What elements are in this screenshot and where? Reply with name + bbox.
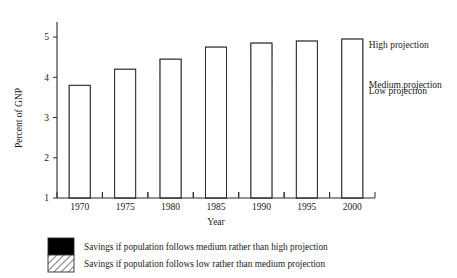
bar-1985 — [206, 47, 227, 198]
bar-outline — [342, 39, 363, 198]
plot-area — [69, 39, 363, 198]
legend-swatch-black — [48, 238, 74, 255]
bar-outline — [251, 43, 272, 198]
x-tick-label: 2000 — [343, 202, 362, 212]
bar-outline — [69, 85, 90, 198]
annotation-high: High projection — [369, 40, 429, 50]
bar-1995 — [296, 41, 317, 198]
x-tick-label: 1970 — [70, 202, 89, 212]
y-tick-label: 2 — [44, 153, 49, 163]
y-axis: 12345 — [44, 22, 57, 203]
y-tick-label: 5 — [44, 32, 49, 42]
x-tick-label: 1990 — [252, 202, 271, 212]
y-tick-label: 4 — [44, 73, 49, 83]
gnp-savings-bar-chart: 12345 1970197519801985199019952000 Perce… — [0, 0, 457, 278]
legend-label: Savings if population follows medium rat… — [84, 242, 328, 252]
bar-outline — [296, 41, 317, 198]
bar-1990 — [251, 43, 272, 198]
bar-1975 — [115, 69, 136, 198]
bar-1970 — [69, 85, 90, 198]
x-tick-label: 1985 — [207, 202, 226, 212]
x-tick-label: 1975 — [116, 202, 135, 212]
chart-container: 12345 1970197519801985199019952000 Perce… — [0, 0, 457, 278]
legend-label: Savings if population follows low rather… — [84, 259, 326, 269]
bar-outline — [115, 69, 136, 198]
projection-annotations: High projectionMedium projectionLow proj… — [369, 40, 442, 96]
x-tick-label: 1995 — [297, 202, 316, 212]
legend-swatch-hatched — [48, 255, 74, 272]
y-axis-title: Percent of GNP — [14, 88, 24, 148]
x-tick-label: 1980 — [161, 202, 180, 212]
bar-outline — [206, 47, 227, 198]
chart-legend: Savings if population follows medium rat… — [48, 238, 328, 272]
y-tick-label: 3 — [44, 113, 49, 123]
bar-outline — [160, 59, 181, 198]
x-axis-title: Year — [207, 217, 225, 227]
bar-2000 — [342, 39, 363, 198]
bar-1980 — [160, 59, 181, 198]
annotation-low: Low projection — [369, 86, 428, 96]
y-tick-label: 1 — [44, 193, 49, 203]
